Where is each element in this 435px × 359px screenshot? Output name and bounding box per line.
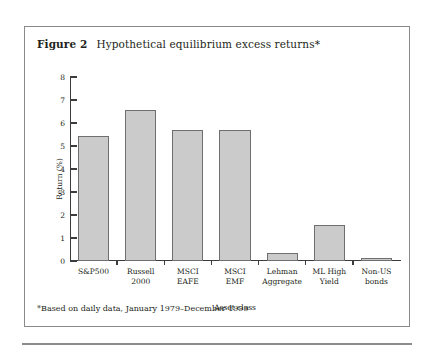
x-axis-tick-label: Non-USbonds: [353, 267, 400, 287]
x-axis-tick: [164, 261, 165, 265]
x-axis-tick-label: LehmanAggregate: [259, 267, 306, 287]
x-axis-tick: [211, 261, 212, 265]
y-axis-tick-label: 5: [60, 142, 65, 151]
page-divider-rule: [22, 343, 412, 345]
chart-plot-area: 012345678: [70, 77, 400, 261]
y-axis-tick-label: 7: [60, 96, 65, 105]
y-axis-tick-label: 3: [60, 188, 65, 197]
figure-label: Figure 2: [37, 38, 87, 50]
bar: [219, 130, 250, 261]
x-axis-tick-label: MSCIEAFE: [164, 267, 211, 287]
y-axis-tick-label: 1: [60, 234, 65, 243]
bar: [361, 258, 392, 261]
y-axis-tick-label: 8: [60, 73, 65, 82]
figure-container: Figure 2Hypothetical equilibrium excess …: [24, 26, 410, 327]
x-axis-tick: [116, 261, 117, 265]
x-axis-tick-labels: S&P500Russell2000MSCIEAFEMSCIEMFLehmanAg…: [70, 267, 400, 301]
y-axis-tick-label: 6: [60, 119, 65, 128]
x-axis-tick: [352, 261, 353, 265]
x-axis-tick: [305, 261, 306, 265]
bar: [172, 130, 203, 261]
bar: [125, 110, 156, 261]
x-axis-tick: [258, 261, 259, 265]
y-axis-tick-label: 4: [60, 165, 65, 174]
chart-plot-wrapper: Return (%) 012345678 S&P500Russell2000MS…: [25, 71, 409, 286]
figure-footnote: *Based on daily data, January 1979–Decem…: [37, 304, 249, 313]
y-axis-tick-label: 0: [60, 256, 65, 265]
y-axis-tick-label: 2: [60, 211, 65, 220]
bar-series: [70, 77, 400, 261]
x-axis-tick-label: ML HighYield: [306, 267, 353, 287]
x-axis-tick-label: S&P500: [70, 267, 117, 277]
bar: [314, 225, 345, 261]
bar: [78, 136, 109, 261]
figure-caption: Figure 2Hypothetical equilibrium excess …: [37, 38, 320, 50]
x-axis-tick-label: Russell2000: [117, 267, 164, 287]
figure-title: Hypothetical equilibrium excess returns*: [96, 38, 320, 50]
x-axis-tick-label: MSCIEMF: [211, 267, 258, 287]
bar: [267, 253, 298, 261]
